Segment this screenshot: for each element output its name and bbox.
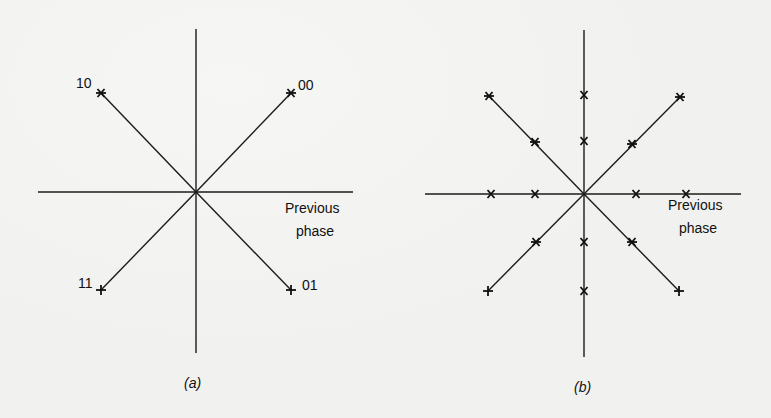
panel-a: 10 00 11 01 Previous phase (a) [38,29,353,391]
panel-a-point-10-label: 10 [76,75,92,91]
panel-b-marker [484,92,494,100]
panel-a-axis-label-line2: phase [296,223,334,239]
panel-a-ray-11 [101,192,196,290]
panel-b-marker [675,93,685,101]
panel-a-point-00-label: 00 [298,77,314,93]
panel-a-caption: (a) [184,375,201,391]
panel-a-ray-01 [196,192,291,290]
panel-b-axis-label-line2: phase [679,220,717,236]
panel-b: Previous phase (b) [425,30,741,395]
panel-b-axis-label-line1: Previous [668,197,722,213]
panel-b-marker [627,140,637,148]
panel-a-point-00-marker [286,89,296,97]
phase-diagram-figure: 10 00 11 01 Previous phase (a) [0,0,771,418]
panel-b-ray-upper-right [584,97,680,194]
panel-b-marker [531,238,541,246]
panel-b-marker [530,138,540,146]
panel-a-ray-00 [196,93,291,192]
panel-a-point-10-marker [96,89,106,97]
panel-b-marker [627,238,637,246]
panel-a-point-01-label: 01 [302,277,318,293]
panel-a-point-11-label: 11 [78,275,93,291]
panel-a-axis-label-line1: Previous [285,200,339,216]
panel-a-ray-10 [101,93,196,192]
panel-b-caption: (b) [574,379,591,395]
